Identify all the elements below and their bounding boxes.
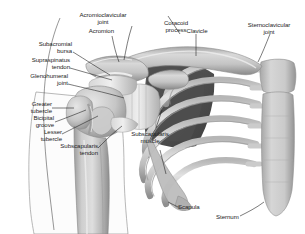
leader-acromioclavicular — [124, 26, 132, 60]
label-subscapularis-muscle: Subscapularis muscle — [118, 131, 182, 144]
anatomy-figure: Acromioclavicular joint Acromion Subacro… — [0, 0, 305, 234]
leader-sternoclavicular — [258, 34, 270, 62]
label-glenohumeral-joint: Glenohumeral joint — [4, 73, 68, 86]
label-sternum: Sternum — [216, 214, 260, 221]
label-scapula: Scapula — [178, 204, 222, 211]
label-acromioclavicular-joint: Acromioclavicular joint — [60, 12, 146, 25]
label-sternoclavicular-joint: Sternoclavicular joint — [236, 22, 302, 35]
label-supraspinatus-tendon: Supraspinatus tendon — [2, 57, 70, 70]
sternum-shape — [260, 59, 296, 216]
label-acromion: Acromion — [52, 28, 114, 35]
label-lesser-tubercle: Lesser tubercle — [18, 129, 62, 142]
label-greater-tubercle: Greater tubercle — [10, 101, 52, 114]
label-clavicle: Clavicle — [176, 28, 218, 35]
label-subscapularis-tendon: Subscapularis tendon — [30, 143, 98, 156]
label-bicipital-groove: Bicipital groove — [12, 115, 54, 128]
label-subacromial-bursa: Subacromial bursa — [8, 41, 72, 54]
